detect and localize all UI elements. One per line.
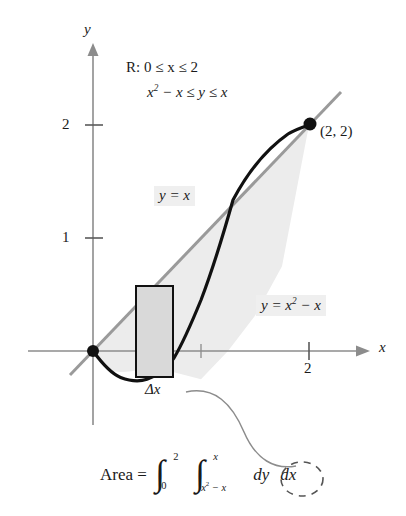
- calculus-region-figure: y x 2 1 2 R: 0 ≤ x ≤ 2 x2 − x ≤ y ≤ x y …: [0, 0, 406, 516]
- y-tick-label-2: 2: [62, 117, 70, 132]
- representative-rectangle: [136, 286, 173, 377]
- integrand-dy: dy: [253, 465, 269, 484]
- region-line2-post: − x ≤ y ≤ x: [158, 84, 227, 100]
- inner-lower-limit: x2 − x: [201, 481, 226, 493]
- region-description-line1: R: 0 ≤ x ≤ 2: [126, 60, 198, 75]
- area-formula: Area = ∫ 2 0 ∫ x x2 − x dydx: [100, 466, 296, 483]
- outer-upper-limit: 2: [173, 452, 178, 463]
- figure-canvas: [0, 0, 406, 516]
- parabola-label-post: − x: [297, 297, 321, 313]
- delta-x-label: Δx: [145, 382, 160, 397]
- region-description-line2: x2 − x ≤ y ≤ x: [147, 84, 227, 100]
- region-line2-pre: x: [147, 84, 154, 100]
- y-axis-arrow: [88, 43, 99, 56]
- inner-lower-post: − x: [209, 482, 226, 493]
- x-axis-label: x: [379, 340, 386, 355]
- line-label-y-equals-x: y = x: [154, 186, 195, 206]
- inner-upper-limit: x: [213, 452, 218, 463]
- formula-lead: Area =: [100, 465, 151, 484]
- point-label-2-2: (2, 2): [320, 124, 353, 139]
- x-tick-label-2: 2: [304, 361, 312, 376]
- y-axis-label: y: [84, 22, 91, 37]
- curve-label-parabola: y = x2 − x: [256, 295, 326, 316]
- region-line1-text: R: 0 ≤ x ≤ 2: [126, 59, 198, 75]
- parabola-label-pre: y = x: [261, 297, 292, 313]
- differential-dx: dx: [280, 465, 296, 484]
- x-axis-arrow: [356, 346, 370, 357]
- point-2-2: [304, 118, 317, 131]
- origin-point: [87, 345, 99, 357]
- outer-lower-limit: 0: [161, 481, 166, 492]
- y-tick-label-1: 1: [62, 230, 70, 245]
